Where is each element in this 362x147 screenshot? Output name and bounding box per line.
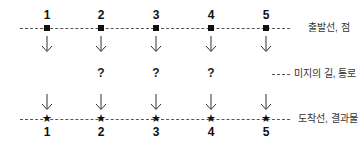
finish-line-label: 도착선, 결과물 <box>298 113 358 125</box>
unknown-mark-3: ? <box>146 67 166 79</box>
unknown-path-legend: 미지의 길, 통로 <box>272 68 356 80</box>
start-point-3 <box>153 25 159 31</box>
down-arrow-icon <box>204 36 218 53</box>
star-icon: ★ <box>41 113 53 124</box>
bottom-number-3: 3 <box>146 126 166 138</box>
down-arrow-icon <box>40 36 54 53</box>
top-number-3: 3 <box>146 9 166 21</box>
unknown-mark-4: ? <box>201 67 221 79</box>
down-arrow-icon <box>204 94 218 111</box>
down-arrow-icon <box>94 94 108 111</box>
bottom-number-4: 4 <box>201 126 221 138</box>
bottom-number-1: 1 <box>37 126 57 138</box>
down-arrow-icon <box>94 36 108 53</box>
star-icon: ★ <box>260 113 272 124</box>
start-line-label: 출발선, 점 <box>308 22 350 34</box>
start-point-2 <box>98 25 104 31</box>
down-arrow-icon <box>149 94 163 111</box>
unknown-mark-2: ? <box>91 67 111 79</box>
diagram: 1 2 3 4 5 출발선, 점 ? ? ? 미지의 길, 통로 ★ ★ ★ ★… <box>0 0 362 147</box>
down-arrow-icon <box>259 36 273 53</box>
start-point-5 <box>263 25 269 31</box>
top-number-2: 2 <box>91 9 111 21</box>
top-number-4: 4 <box>201 9 221 21</box>
down-arrow-icon <box>40 94 54 111</box>
top-number-1: 1 <box>37 9 57 21</box>
start-point-1 <box>44 25 50 31</box>
star-icon: ★ <box>205 113 217 124</box>
down-arrow-icon <box>149 36 163 53</box>
top-number-5: 5 <box>256 9 276 21</box>
unknown-path-label: 미지의 길, 통로 <box>294 68 356 79</box>
bottom-number-2: 2 <box>91 126 111 138</box>
bottom-number-5: 5 <box>256 126 276 138</box>
star-icon: ★ <box>150 113 162 124</box>
dashed-line-legend-icon <box>272 74 290 75</box>
start-point-4 <box>208 25 214 31</box>
down-arrow-icon <box>259 94 273 111</box>
star-icon: ★ <box>95 113 107 124</box>
